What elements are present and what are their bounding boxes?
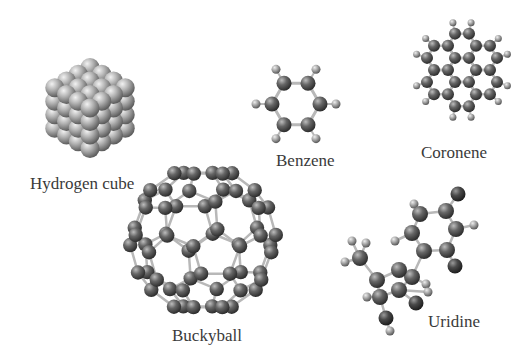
hydrogen-cube-structure <box>45 58 134 158</box>
label-benzene: Benzene <box>276 152 335 169</box>
coronene-structure <box>413 19 511 120</box>
label-uridine: Uridine <box>428 313 480 330</box>
benzene-structure <box>252 65 341 143</box>
label-hydrogen-cube: Hydrogen cube <box>30 175 134 192</box>
label-coronene: Coronene <box>421 144 487 161</box>
buckyball-structure <box>123 166 283 315</box>
label-buckyball: Buckyball <box>172 327 242 344</box>
molecule-figure: Hydrogen cube Benzene Coronene Buckyball… <box>0 0 524 359</box>
